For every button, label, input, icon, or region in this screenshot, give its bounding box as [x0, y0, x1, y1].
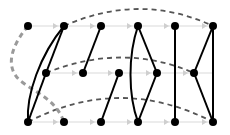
- node: [209, 118, 217, 126]
- node: [115, 69, 123, 77]
- node: [171, 118, 179, 126]
- arrow-icon: [164, 23, 169, 29]
- arrow-icon: [90, 23, 95, 29]
- node: [42, 69, 50, 77]
- node: [97, 118, 105, 126]
- arrow-icon: [146, 70, 151, 76]
- arrow-icon: [127, 23, 132, 29]
- arrow-icon: [164, 119, 169, 125]
- solid-edge-curve-2: [131, 26, 139, 122]
- node: [134, 22, 142, 30]
- arrow-icon: [202, 119, 207, 125]
- arrow-icon: [53, 119, 58, 125]
- graph-diagram: [0, 0, 230, 135]
- solid-edge: [138, 26, 157, 73]
- arrow-icon: [108, 70, 113, 76]
- arrow-icon: [90, 119, 95, 125]
- dashed-edge-bottom: [28, 98, 213, 122]
- node: [60, 118, 68, 126]
- node: [24, 22, 32, 30]
- solid-edge: [138, 73, 157, 122]
- node: [134, 118, 142, 126]
- arrow-icon: [127, 119, 132, 125]
- node: [209, 22, 217, 30]
- arrow-icon: [53, 23, 58, 29]
- solid-edge: [194, 26, 213, 73]
- node: [24, 118, 32, 126]
- solid-edge: [83, 26, 101, 73]
- node: [190, 69, 198, 77]
- diagram-svg: [0, 0, 230, 135]
- node: [60, 22, 68, 30]
- node: [171, 22, 179, 30]
- gray-dashed-edge: [11, 26, 64, 122]
- node: [79, 69, 87, 77]
- node: [153, 69, 161, 77]
- node: [97, 22, 105, 30]
- arrow-icon: [72, 70, 77, 76]
